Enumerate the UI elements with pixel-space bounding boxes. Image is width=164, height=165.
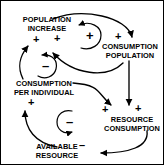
node-population-increase-line-1: POPULATION xyxy=(11,15,83,24)
node-consumption-per-individual: CONSUMPTION PER INDIVIDUAL xyxy=(5,79,83,97)
node-resource-consumption-line-2: CONSUMPTION xyxy=(99,124,164,133)
sign-population-increase-right: + xyxy=(54,33,60,44)
node-population-increase-line-2: INCREASE xyxy=(11,24,83,33)
link-consumption-per-individual-to-population-increase xyxy=(20,46,28,79)
node-consumption-population-line-2: POPULATION xyxy=(95,51,164,60)
node-consumption-population-line-1: CONSUMPTION xyxy=(95,42,164,51)
node-consumption-per-individual-line-1: CONSUMPTION xyxy=(5,79,83,88)
sign-resource-consumption-right: + xyxy=(135,103,141,114)
loop-marker-balancing-left: – xyxy=(42,59,49,72)
sign-consumption-population: + xyxy=(115,31,121,42)
link-resource-consumption-to-available-resource xyxy=(101,131,147,153)
node-consumption-population: CONSUMPTION POPULATION xyxy=(95,42,164,60)
loop-marker-reinforcing-top: + xyxy=(86,29,94,42)
node-consumption-per-individual-line-2: PER INDIVIDUAL xyxy=(5,88,83,97)
node-available-resource-line-2: RESOURCE xyxy=(22,151,92,160)
sign-available-resource: – xyxy=(79,140,85,151)
node-population-increase: POPULATION INCREASE xyxy=(11,15,83,33)
node-resource-consumption-line-1: RESOURCE xyxy=(99,115,164,124)
loop-marker-balancing-bottom: – xyxy=(66,115,73,128)
node-resource-consumption: RESOURCE CONSUMPTION xyxy=(99,115,164,133)
sign-resource-consumption-left: + xyxy=(102,104,108,115)
sign-consumption-per-individual: + xyxy=(28,97,34,108)
causal-loop-diagram: POPULATION INCREASE CONSUMPTION POPULATI… xyxy=(0,0,164,165)
sign-population-increase-left: + xyxy=(33,34,39,45)
